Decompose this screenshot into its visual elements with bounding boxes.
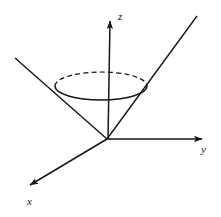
z-axis-label: z [118,11,122,22]
cross-section-front-arc-solid [55,86,147,100]
x-axis-label: x [27,196,32,207]
z-axis-line [108,21,110,139]
diagram-canvas [0,0,221,217]
cone-right-generator-line [107,16,197,139]
x-axis-line [30,139,107,185]
y-axis-label: y [201,144,206,155]
cone-diagram-figure: z y x [0,0,221,217]
cone-left-generator-line [15,58,107,139]
cross-section-back-arc-dashed [55,72,147,86]
